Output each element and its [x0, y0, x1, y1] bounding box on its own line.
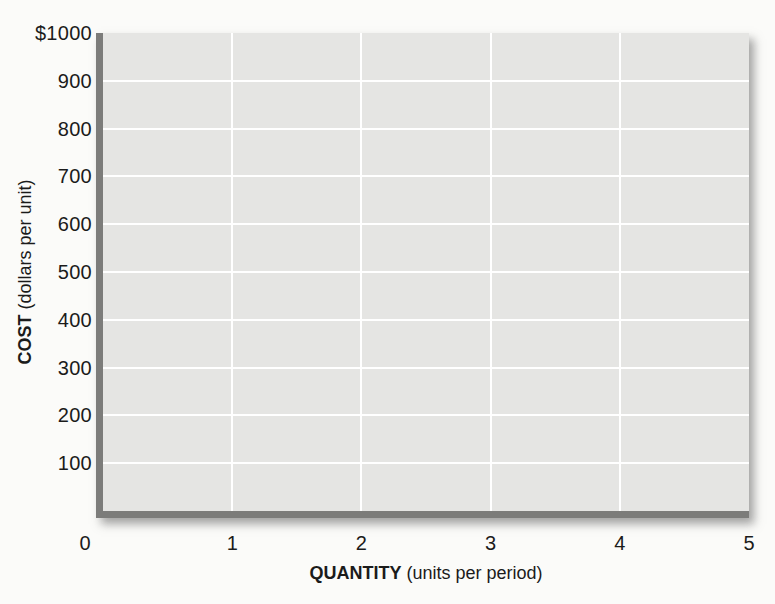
h-gridline-200 — [103, 414, 749, 416]
x-axis-title: QUANTITY (units per period) — [103, 561, 749, 585]
y-tick-label: 400 — [0, 308, 92, 332]
y-tick-label: 900 — [0, 69, 92, 93]
h-gridline-700 — [103, 175, 749, 177]
y-tick-label: 100 — [0, 451, 92, 475]
h-gridline-500 — [103, 271, 749, 273]
y-tick-label: 300 — [0, 356, 92, 380]
h-gridline-300 — [103, 367, 749, 369]
x-tick-label: 1 — [210, 531, 254, 555]
h-gridline-600 — [103, 223, 749, 225]
h-gridline-400 — [103, 319, 749, 321]
x-tick-label: 0 — [63, 531, 107, 555]
y-tick-label: 800 — [0, 117, 92, 141]
chart-box — [96, 33, 749, 518]
v-gridline-2 — [360, 33, 362, 511]
y-axis-line — [96, 33, 103, 518]
x-tick-label: 4 — [598, 531, 642, 555]
y-tick-label: 600 — [0, 212, 92, 236]
y-tick-label: $1000 — [0, 21, 92, 45]
y-tick-label: 200 — [0, 403, 92, 427]
chart-figure: COST (dollars per unit) $100090080070060… — [0, 0, 775, 604]
v-gridline-3 — [490, 33, 492, 511]
v-gridline-4 — [619, 33, 621, 511]
v-gridline-1 — [231, 33, 233, 511]
y-tick-label: 700 — [0, 164, 92, 188]
x-axis-title-rest: (units per period) — [401, 563, 542, 583]
x-tick-label: 5 — [727, 531, 771, 555]
h-gridline-100 — [103, 462, 749, 464]
x-axis-title-bold: QUANTITY — [309, 563, 401, 583]
y-tick-label: 500 — [0, 260, 92, 284]
y-axis-title-rest: (dollars per unit) — [15, 179, 35, 314]
x-axis-line — [96, 511, 749, 518]
h-gridline-900 — [103, 80, 749, 82]
x-tick-label: 2 — [339, 531, 383, 555]
h-gridline-800 — [103, 128, 749, 130]
x-tick-label: 3 — [469, 531, 513, 555]
plot-grid — [103, 33, 749, 511]
